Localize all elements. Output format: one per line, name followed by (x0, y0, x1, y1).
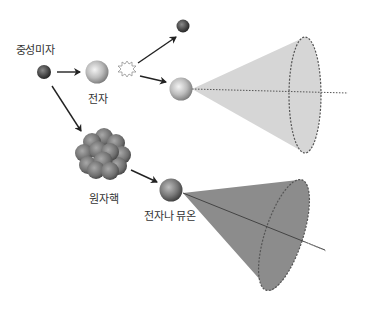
nucleus-label: 원자핵 (89, 190, 118, 206)
neutrino-label: 중성미자 (16, 41, 55, 57)
dark-cone (183, 174, 326, 296)
scattered-neutrino-sphere (177, 20, 190, 33)
electron-label: 전자 (88, 90, 107, 106)
arrow-nucleus-to-lepton (131, 170, 157, 182)
collision-starburst-icon (118, 61, 136, 77)
arrow-scatter-neutrino (138, 37, 176, 63)
arrow-scatter-electron (140, 76, 166, 82)
light-cone (192, 37, 348, 153)
arrow-neutrino-to-nucleus (52, 86, 81, 131)
scattered-electron-sphere (170, 78, 193, 101)
neutrino-interaction-diagram (0, 0, 368, 312)
neutrino-sphere (37, 65, 51, 79)
electron-or-muon-sphere (160, 179, 183, 202)
electron-sphere (86, 61, 109, 84)
electron-or-muon-label: 전자나 뮤온 (144, 207, 196, 223)
nucleus-cluster (75, 128, 131, 180)
